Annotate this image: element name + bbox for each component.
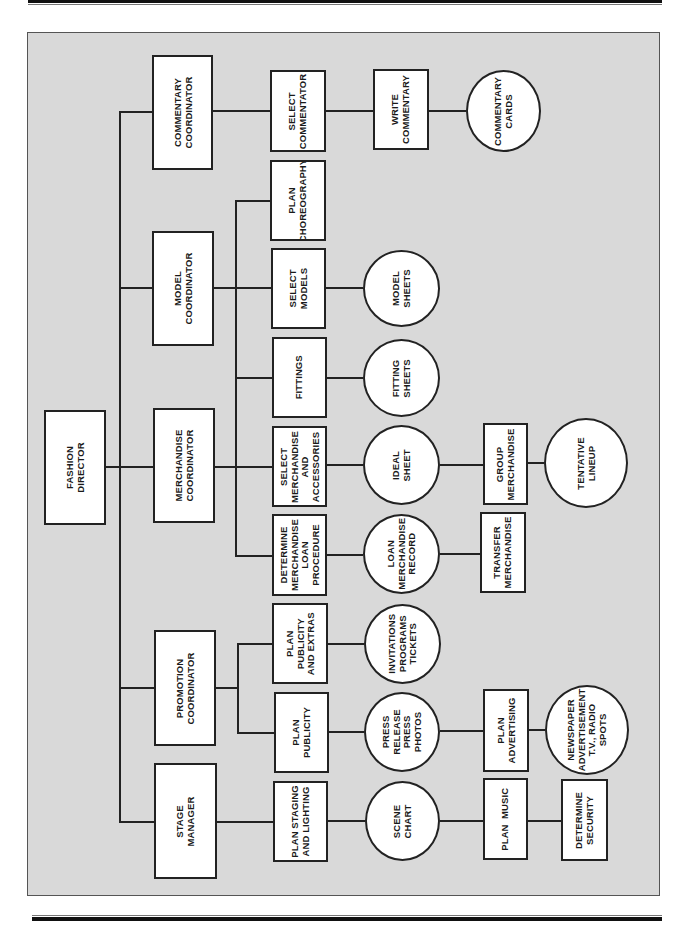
node-label: SELECT COMMENTATOR (288, 73, 309, 149)
node-merchandise-coordinator: MERCHANDISE COORDINATOR (153, 408, 215, 523)
node-label: MERCHANDISE COORDINATOR (174, 430, 195, 502)
node-label: DETERMINE MERCHANDISE LOAN PROCEDURE (279, 519, 321, 591)
node-label: STAGE MANAGER (175, 796, 196, 846)
node-determine-security: DETERMINE SECURITY (561, 779, 608, 861)
node-fashion-director: FASHION DIRECTOR (44, 410, 106, 525)
node-press-release: PRESS RELEASE PRESS PHOTOS (364, 692, 440, 772)
node-plan-publicity-extras: PLAN PUBLICITY AND EXTRAS (272, 603, 328, 684)
node-invitations: INVITATIONS PROGRAMS TICKETS (364, 604, 441, 684)
node-label: GROUP MERCHANDISE (495, 428, 516, 500)
node-plan-publicity: PLAN PUBLICITY (274, 692, 329, 773)
node-label: LOAN MERCHANDISE RECORD (386, 518, 418, 590)
node-plan-staging: PLAN STAGING AND LIGHTING (273, 781, 328, 862)
node-plan-music: PLAN MUSIC (483, 778, 528, 860)
node-commentary-cards: COMMENTARY CARDS (466, 70, 541, 152)
node-label: PLAN CHOREOGRAPHY (288, 160, 309, 241)
node-label: PLAN STAGING AND LIGHTING (290, 785, 311, 857)
bottom-rule (32, 917, 662, 921)
node-plan-advertising: PLAN ADVERTISING (483, 689, 529, 772)
node-model-sheets: MODEL SHEETS (363, 250, 440, 327)
node-label: WRITE COMMENTARY (391, 75, 412, 144)
node-label: DETERMINE SECURITY (574, 792, 595, 849)
node-label: PLAN PUBLICITY AND EXTRAS (284, 612, 316, 675)
node-select-commentator: SELECT COMMENTATOR (270, 70, 326, 152)
node-label: COMMENTARY CARDS (493, 76, 514, 145)
node-label: PLAN ADVERTISING (496, 697, 517, 763)
node-label: PROMOTION COORDINATOR (175, 652, 196, 724)
node-write-commentary: WRITE COMMENTARY (373, 69, 429, 150)
node-label: NEWSPAPER ADVERTISEMENT T.V., RADIO SPOT… (566, 689, 608, 772)
node-label: SELECT MODELS (288, 268, 309, 309)
node-transfer-merchandise: TRANSFER MERCHANDISE (480, 512, 526, 593)
node-label: SELECT MERCHANDISE AND ACCESSORIES (279, 431, 321, 503)
node-select-models: SELECT MODELS (271, 248, 326, 329)
node-plan-choreography: PLAN CHOREOGRAPHY (270, 160, 326, 241)
node-label: PRESS RELEASE PRESS PHOTOS (381, 709, 423, 755)
node-label: IDEAL SHEET (391, 449, 412, 481)
node-label: PLAN MUSIC (500, 788, 511, 851)
node-group-merchandise: GROUP MERCHANDISE (483, 423, 528, 505)
node-label: FITTINGS (294, 355, 305, 399)
node-loan-record: LOAN MERCHANDISE RECORD (363, 514, 440, 594)
node-select-merchandise: SELECT MERCHANDISE AND ACCESSORIES (272, 426, 327, 507)
node-label: TRANSFER MERCHANDISE (493, 517, 514, 589)
node-newspaper: NEWSPAPER ADVERTISEMENT T.V., RADIO SPOT… (545, 685, 629, 775)
node-label: PLAN PUBLICITY (291, 707, 312, 758)
node-label: MODEL COORDINATOR (173, 253, 194, 325)
node-ideal-sheet: IDEAL SHEET (363, 425, 440, 505)
node-label: INVITATIONS PROGRAMS TICKETS (387, 614, 419, 674)
node-fittings: FITTINGS (272, 337, 327, 418)
node-label: COMMENTARY COORDINATOR (172, 77, 193, 149)
node-determine-loan: DETERMINE MERCHANDISE LOAN PROCEDURE (272, 514, 327, 596)
node-label: FASHION DIRECTOR (65, 442, 86, 492)
node-label: MODEL SHEETS (391, 269, 412, 308)
node-label: TENTATIVE LINEUP (576, 437, 597, 489)
node-promotion-coordinator: PROMOTION COORDINATOR (154, 630, 216, 746)
node-label: SCENE CHART (392, 804, 413, 838)
node-scene-chart: SCENE CHART (365, 781, 440, 861)
node-fitting-sheets: FITTING SHEETS (363, 339, 440, 417)
node-tentative-lineup: TENTATIVE LINEUP (544, 418, 628, 508)
node-stage-manager: STAGE MANAGER (154, 763, 217, 879)
node-label: FITTING SHEETS (391, 359, 412, 398)
node-model-coordinator: MODEL COORDINATOR (152, 231, 214, 346)
bottom-rule-thin (32, 915, 662, 916)
node-commentary-coordinator: COMMENTARY COORDINATOR (152, 55, 213, 170)
